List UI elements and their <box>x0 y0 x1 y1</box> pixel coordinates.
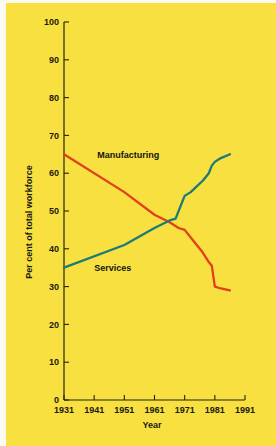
x-tick-label: 1931 <box>54 405 74 415</box>
x-tick-label: 1971 <box>175 405 195 415</box>
x-axis-tick-labels: 1931194119511961197119811991 <box>54 405 255 415</box>
x-tick-label: 1951 <box>114 405 134 415</box>
series-lines <box>64 154 230 290</box>
y-tick-label: 0 <box>54 395 59 405</box>
series-label-manufacturing: Manufacturing <box>97 150 159 160</box>
x-tick-label: 1991 <box>235 405 255 415</box>
series-label-services: Services <box>94 263 131 273</box>
line-chart: 0102030405060708090100 19311941195119611… <box>0 0 276 446</box>
y-tick-label: 20 <box>49 320 59 330</box>
y-tick-label: 70 <box>49 131 59 141</box>
y-tick-label: 60 <box>49 168 59 178</box>
series-line-services <box>64 154 230 267</box>
y-tick-label: 100 <box>44 17 59 27</box>
x-tick-label: 1961 <box>144 405 164 415</box>
x-axis-ticks <box>64 395 245 400</box>
y-tick-label: 50 <box>49 206 59 216</box>
x-axis-title: Year <box>142 420 162 430</box>
x-tick-label: 1941 <box>84 405 104 415</box>
y-tick-label: 40 <box>49 244 59 254</box>
y-tick-label: 80 <box>49 93 59 103</box>
x-tick-label: 1981 <box>205 405 225 415</box>
chart-screenshot: 0102030405060708090100 19311941195119611… <box>0 0 276 446</box>
y-tick-label: 10 <box>49 357 59 367</box>
y-axis-tick-labels: 0102030405060708090100 <box>44 17 59 405</box>
y-tick-label: 90 <box>49 55 59 65</box>
y-axis-title: Per cent of total workforce <box>24 165 34 279</box>
series-line-manufacturing <box>64 154 230 290</box>
y-tick-label: 30 <box>49 282 59 292</box>
y-axis-ticks <box>64 22 69 400</box>
